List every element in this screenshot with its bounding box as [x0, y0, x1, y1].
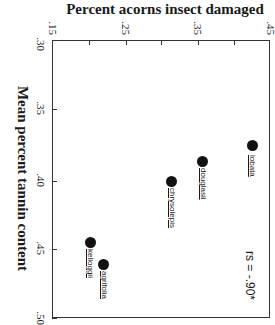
y-tick: [52, 249, 57, 250]
y-tick-label: .45: [35, 241, 47, 255]
y-tick-label: .40: [35, 173, 47, 187]
x-tick-label: .35: [192, 21, 204, 35]
x-tick: [161, 40, 162, 45]
x-tick-label: .45: [265, 21, 275, 35]
y-axis-label: Mean percent tannin content: [14, 39, 31, 319]
plot-area: lobata douglasii chrysolepis kelloggii a…: [52, 40, 270, 318]
y-tick-label: .50: [35, 311, 47, 325]
y-tick-label: .30: [35, 37, 47, 51]
y-tick-label: .35: [35, 101, 47, 115]
data-point-chrysolepis: [166, 176, 177, 187]
data-point-agrifolia: [98, 259, 109, 270]
x-tick: [234, 40, 235, 45]
y-tick: [52, 181, 57, 182]
x-tick: [126, 40, 127, 45]
x-tick-label: .25: [120, 21, 132, 35]
point-label: douglasii: [199, 168, 208, 200]
correlation-annotation: rs = -.90*: [243, 251, 257, 300]
y-tick: [52, 318, 57, 319]
y-tick: [52, 109, 57, 110]
point-label: kelloggii: [86, 249, 95, 278]
point-label: chrysolepis: [168, 188, 177, 228]
x-tick: [89, 40, 90, 45]
data-point-douglasii: [197, 156, 208, 167]
chart-title: Percent acorns insect damaged: [55, 0, 275, 18]
data-point-kelloggii: [85, 237, 96, 248]
data-point-lobata: [247, 140, 258, 151]
x-tick: [198, 40, 199, 45]
point-label: lobata: [248, 155, 257, 177]
x-tick-label: .15: [47, 21, 59, 35]
point-label: agrifolia: [100, 271, 109, 299]
